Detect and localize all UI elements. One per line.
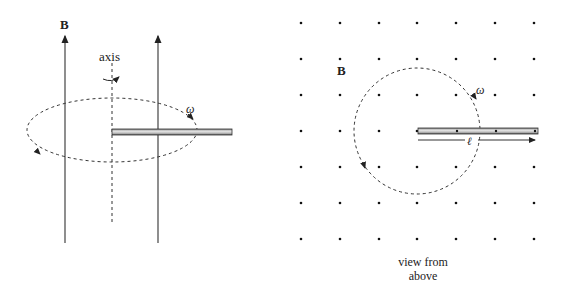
field-dot-icon	[455, 238, 458, 241]
field-dot-icon	[300, 238, 303, 241]
diagram-canvas: B axis ω B ω ℓ view from abov	[0, 0, 565, 296]
field-dot-icon	[494, 22, 497, 25]
orbit-arrow-left-icon	[36, 150, 40, 154]
field-dot-icon	[378, 130, 381, 133]
field-dot-icon	[533, 166, 536, 169]
field-dot-icon	[339, 166, 342, 169]
rod	[112, 129, 232, 135]
field-dot-icon	[494, 58, 497, 61]
field-dot-icon	[300, 58, 303, 61]
orbit-arrow-bottom-icon	[364, 165, 365, 168]
field-dot-icon	[339, 202, 342, 205]
caption-line-2: above	[409, 269, 438, 283]
field-dot-icon	[339, 58, 342, 61]
field-dot-icon	[378, 166, 381, 169]
field-dot-icon	[339, 94, 342, 97]
field-dot-icon	[416, 166, 419, 169]
field-dot-icon	[300, 130, 303, 133]
omega-label-top: ω	[476, 83, 484, 97]
rod-dot	[456, 130, 458, 132]
caption-line-1: view from	[398, 255, 448, 269]
axis-label: axis	[99, 49, 120, 64]
field-dot-icon	[416, 58, 419, 61]
field-dot-icon	[339, 22, 342, 25]
field-label-b-top: B	[337, 63, 346, 78]
field-dot-icon	[378, 94, 381, 97]
rod-top	[418, 128, 538, 134]
omega-label: ω	[186, 102, 194, 116]
field-dot-icon	[494, 166, 497, 169]
field-dot-icon	[339, 130, 342, 133]
field-dot-icon	[533, 94, 536, 97]
right-figure: B ω ℓ view from above	[300, 22, 538, 283]
field-dot-icon	[533, 22, 536, 25]
field-dot-icon	[455, 166, 458, 169]
field-dot-icon	[416, 238, 419, 241]
rod-dot	[534, 130, 536, 132]
field-dot-icon	[455, 58, 458, 61]
left-figure: B axis ω	[27, 17, 232, 243]
field-dot-icon	[300, 94, 303, 97]
field-dot-icon	[416, 22, 419, 25]
field-dot-icon	[533, 58, 536, 61]
field-dot-icon	[494, 94, 497, 97]
field-dot-icon	[455, 22, 458, 25]
field-dot-icon	[533, 238, 536, 241]
field-dot-icon	[416, 94, 419, 97]
field-dot-icon	[533, 202, 536, 205]
field-dot-icon	[378, 202, 381, 205]
field-dot-icon	[455, 94, 458, 97]
field-label-b: B	[60, 17, 69, 32]
field-dot-icon	[494, 202, 497, 205]
field-dot-icon	[300, 22, 303, 25]
rotation-arrow-icon	[103, 77, 119, 81]
field-dot-icon	[455, 202, 458, 205]
field-dot-icon	[339, 238, 342, 241]
length-label: ℓ	[467, 135, 472, 147]
field-dot-icon	[378, 238, 381, 241]
rod-dot	[495, 130, 497, 132]
field-dot-icon	[416, 202, 419, 205]
field-dot-icon	[378, 58, 381, 61]
field-dot-icon	[494, 238, 497, 241]
field-dot-icon	[300, 166, 303, 169]
field-dot-icon	[378, 22, 381, 25]
field-dot-icon	[300, 202, 303, 205]
